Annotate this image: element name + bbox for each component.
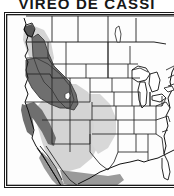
- lake-ontario-outline: [164, 86, 174, 92]
- lake-winnipeg-outline: [115, 26, 121, 42]
- canada-province-borders: [52, 16, 136, 42]
- figure-title: VIREO DE CASSI: [0, 0, 174, 11]
- north-america-range-map: [4, 12, 174, 188]
- lake-erie-outline: [152, 94, 166, 102]
- florida-outline: [162, 154, 170, 180]
- lake-huron-outline: [149, 72, 160, 92]
- map-container: [4, 12, 174, 188]
- lake-michigan-outline: [138, 82, 147, 108]
- range-map-figure: VIREO DE CASSI: [0, 0, 174, 196]
